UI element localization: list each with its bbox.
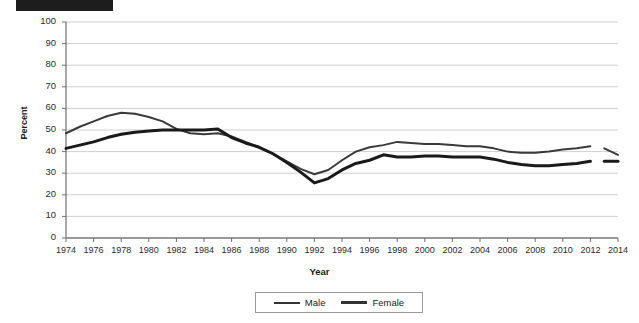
chart-figure: Percent Year 0102030405060708090100 1974… <box>0 0 639 323</box>
y-tick-label: 30 <box>24 166 56 177</box>
legend-item-female: Female <box>341 297 404 308</box>
y-tick-label: 100 <box>24 15 56 26</box>
data-series-layer <box>66 113 618 183</box>
legend-label-male: Male <box>305 297 326 308</box>
legend-label-female: Female <box>372 297 404 308</box>
y-tick-label: 70 <box>24 80 56 91</box>
series-line-female <box>66 129 590 183</box>
y-tick-label: 10 <box>24 209 56 220</box>
series-line-male <box>66 113 590 175</box>
x-axis-title: Year <box>0 266 639 277</box>
legend-item-male: Male <box>274 297 326 308</box>
y-tick-label: 80 <box>24 58 56 69</box>
y-tick-label: 90 <box>24 37 56 48</box>
y-tick-label: 50 <box>24 123 56 134</box>
y-tick-label: 40 <box>24 145 56 156</box>
legend-swatch-male-icon <box>274 302 300 304</box>
y-tick-label: 60 <box>24 101 56 112</box>
chart-legend: Male Female <box>255 292 423 313</box>
redacted-title-bar <box>16 0 113 11</box>
y-tick-label: 0 <box>24 231 56 242</box>
legend-swatch-female-icon <box>341 301 367 304</box>
y-tick-label: 20 <box>24 188 56 199</box>
x-tick-label: 2014 <box>598 245 638 255</box>
